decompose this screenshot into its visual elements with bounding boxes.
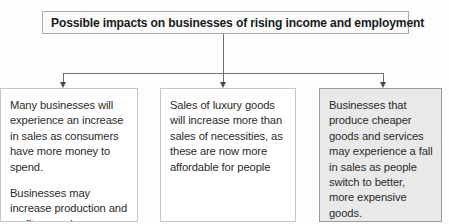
box-2-paragraph-1: Sales of luxury goods will increase more…: [170, 98, 287, 175]
box-1-paragraph-1: Many businesses will experience an incre…: [10, 98, 129, 175]
diagram-title-text: Possible impacts on businesses of rising…: [51, 16, 424, 30]
diagram-box-increased-sales: Many businesses will experience an incre…: [0, 88, 138, 222]
box-3-paragraph-1: Businesses that produce cheaper goods an…: [329, 98, 433, 221]
diagram-canvas: Possible impacts on businesses of rising…: [0, 0, 449, 224]
box-1-paragraph-2: Businesses may increase production and p…: [10, 186, 129, 222]
connector-stem-vertical: [223, 34, 224, 73]
diagram-box-luxury-goods-sales: Sales of luxury goods will increase more…: [160, 88, 296, 222]
diagram-box-cheaper-goods-fall: Businesses that produce cheaper goods an…: [319, 88, 442, 222]
diagram-title-box: Possible impacts on businesses of rising…: [42, 11, 409, 34]
